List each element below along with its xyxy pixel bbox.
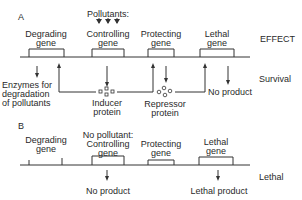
panel-b-label: B [18, 121, 24, 131]
panel-a-label: A [18, 12, 24, 22]
lethal-product-label: Lethal product [190, 186, 247, 196]
lethal-gene-label-2: gene [207, 38, 227, 48]
repressor-protein-icon [157, 86, 172, 97]
repressor-protein-label-2: protein [151, 108, 179, 118]
effect-header: EFFECT [260, 34, 295, 44]
protecting-gene-label-2: gene [151, 38, 171, 48]
inducer-protein-icon [99, 87, 114, 96]
pollutants-label: Pollutants: [87, 9, 129, 19]
controlling-gene-label-2: gene [98, 38, 118, 48]
b-protecting-gene-label-2: gene [151, 148, 171, 158]
degrading-gene-label-2: gene [36, 38, 56, 48]
effect-survival: Survival [259, 74, 291, 84]
enzymes-label-3: of pollutants [2, 98, 51, 108]
effect-lethal: Lethal [259, 172, 284, 182]
b-degrading-gene-label-2: gene [36, 144, 56, 154]
no-product-label: No product [208, 87, 252, 97]
inducer-protein-label-2: protein [93, 107, 121, 117]
b-lethal-gene-label-2: gene [206, 146, 226, 156]
b-no-product-label: No product [86, 186, 130, 196]
b-controlling-gene-label-2: gene [98, 148, 118, 158]
